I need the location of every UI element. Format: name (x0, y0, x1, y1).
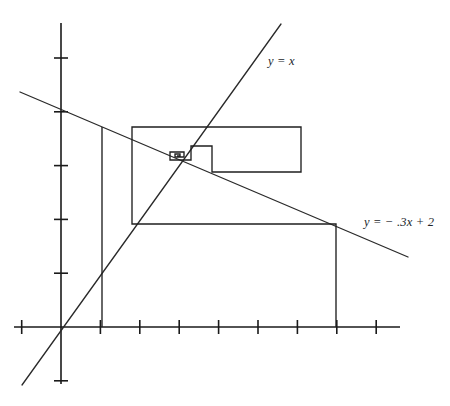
plot-canvas (0, 0, 450, 406)
axes-group (14, 23, 400, 384)
cobweb-staircase-path (132, 127, 336, 327)
cobweb-figure: y = x y = − .3x + 2 (0, 0, 450, 406)
cobweb-orbit (102, 127, 336, 327)
identity-line-label: y = x (268, 54, 295, 69)
map-line-label: y = − .3x + 2 (364, 215, 434, 230)
function-lines (20, 24, 408, 385)
